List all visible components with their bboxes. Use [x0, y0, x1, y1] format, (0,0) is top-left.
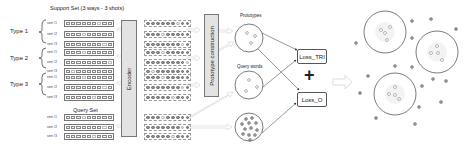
token-icon [71, 86, 75, 89]
embedding-dot-icon [181, 76, 185, 80]
embedding-dot-icon [166, 43, 170, 47]
sentence-token-row [64, 20, 114, 27]
embedding-dot-icon [146, 70, 150, 74]
token-icon [82, 96, 86, 99]
token-icon [102, 86, 106, 89]
sentence-label: sent #3 [47, 42, 57, 46]
token-icon [82, 33, 86, 36]
token-icon [87, 43, 91, 46]
embedding-dot-icon [176, 76, 180, 80]
embedding-dot-icon [161, 126, 165, 130]
loss-connector-lines [258, 33, 299, 133]
embedding-dot-icon [151, 135, 155, 139]
token-icon [66, 51, 70, 54]
token-icon [92, 61, 96, 64]
embedding-dot-icon [161, 70, 165, 74]
token-icon [108, 96, 112, 99]
embedding-row [144, 114, 191, 121]
token-icon [71, 76, 75, 79]
embedding-dot-icon [186, 43, 190, 47]
token-icon [97, 96, 101, 99]
token-icon [102, 51, 106, 54]
token-icon [102, 33, 106, 36]
token-icon [108, 70, 112, 73]
token-icon [87, 22, 91, 25]
sentence-token-row [64, 74, 114, 81]
token-icon [71, 96, 75, 99]
embedding-dot-icon [181, 33, 185, 37]
token-icon [102, 76, 106, 79]
token-icon [87, 61, 91, 64]
token-icon [102, 96, 106, 99]
token-icon [87, 86, 91, 89]
embedding-dot-icon [171, 33, 175, 37]
token-icon [82, 76, 86, 79]
embedding-dot-icon [181, 22, 185, 26]
embedding-dot-icon [186, 116, 190, 120]
token-icon [97, 43, 101, 46]
loss-o-box: Loss_O [297, 92, 327, 107]
token-icon [102, 43, 106, 46]
type-3-label: Type 3 [10, 81, 28, 87]
token-icon [76, 33, 80, 36]
token-icon [66, 116, 70, 119]
embedding-row [144, 94, 191, 101]
token-icon [76, 61, 80, 64]
embedding-dot-icon [161, 33, 165, 37]
sentence-token-row [64, 124, 114, 131]
embedding-dot-icon [156, 135, 160, 139]
sentence-label: sent #1 [47, 75, 57, 79]
token-icon [71, 51, 75, 54]
token-icon [97, 70, 101, 73]
token-icon [76, 22, 80, 25]
token-icon [108, 61, 112, 64]
embedding-row [144, 124, 191, 131]
token-icon [71, 116, 75, 119]
token-icon [71, 70, 75, 73]
embedding-dot-icon [156, 70, 160, 74]
token-icon [102, 116, 106, 119]
token-icon [102, 135, 106, 138]
token-icon [92, 135, 96, 138]
token-icon [71, 43, 75, 46]
loss-tri-box: Loss_TRI [297, 49, 327, 64]
sentence-token-row [64, 94, 114, 101]
sentence-label: sent #2 [47, 60, 57, 64]
embedding-dot-icon [166, 22, 170, 26]
embedding-dot-icon [166, 126, 170, 130]
token-icon [87, 33, 91, 36]
token-icon [87, 76, 91, 79]
embedding-dot-icon [171, 43, 175, 47]
loss-o-label: Loss_O [302, 97, 323, 103]
query-arrow-icons [187, 92, 233, 130]
embedding-dot-icon [171, 135, 175, 139]
embedding-dot-icon [186, 61, 190, 65]
embedding-dot-icon [156, 61, 160, 65]
embedding-dot-icon [166, 70, 170, 74]
token-icon [97, 86, 101, 89]
embedding-dot-icon [161, 96, 165, 100]
embedding-dot-icon [176, 86, 180, 90]
token-icon [76, 116, 80, 119]
embedding-dot-icon [151, 96, 155, 100]
token-icon [82, 43, 86, 46]
token-icon [108, 135, 112, 138]
embedding-dot-icon [166, 86, 170, 90]
embedding-dot-icon [156, 76, 160, 80]
embedding-dot-icon [151, 51, 155, 55]
embedding-dot-icon [151, 116, 155, 120]
embedding-dot-icon [151, 86, 155, 90]
embedding-dot-icon [146, 96, 150, 100]
token-icon [92, 22, 96, 25]
embedding-dot-icon [161, 51, 165, 55]
embedding-dot-icon [166, 96, 170, 100]
embedding-dot-icon [166, 116, 170, 120]
token-icon [66, 70, 70, 73]
embedding-dot-icon [171, 70, 175, 74]
embedding-dot-icon [146, 76, 150, 80]
embedding-dot-icon [151, 70, 155, 74]
token-icon [102, 22, 106, 25]
embedding-dot-icon [181, 96, 185, 100]
sentence-label: sent #3 [47, 69, 57, 73]
prototype-construction-label: Prototype construction [209, 26, 215, 86]
